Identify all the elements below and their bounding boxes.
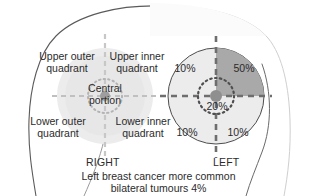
label-central-portion-line1: Central <box>74 82 136 94</box>
caption-line-1: Left breast cancer more common <box>0 170 317 182</box>
label-upper-outer-quadrant: Upper outer quadrant <box>34 50 100 74</box>
side-label-right: RIGHT <box>86 157 120 168</box>
label-lower-inner-quadrant-line1: Lower inner <box>108 115 178 127</box>
label-lower-outer-quadrant: Lower outer quadrant <box>22 115 94 139</box>
torso-neck-shade <box>150 3 266 36</box>
caption-line-2: bilateral tumours 4% <box>0 182 317 194</box>
percent-lower-outer-quadrant: 10% <box>172 127 202 138</box>
label-upper-outer-quadrant-line1: Upper outer <box>34 50 100 62</box>
diagram-canvas <box>0 0 317 196</box>
label-central-portion: Central portion <box>74 82 136 106</box>
label-upper-inner-quadrant-line1: Upper inner <box>104 50 170 62</box>
label-lower-outer-quadrant-line1: Lower outer <box>22 115 94 127</box>
breast-quadrant-diagram: Upper outer quadrant Upper inner quadran… <box>0 0 317 196</box>
label-upper-inner-quadrant-line2: quadrant <box>104 62 170 74</box>
left-breast-group <box>160 36 272 158</box>
percent-upper-inner-quadrant: 50% <box>228 63 260 74</box>
label-lower-outer-quadrant-line2: quadrant <box>22 127 94 139</box>
percent-lower-inner-quadrant: 10% <box>222 127 254 138</box>
label-lower-inner-quadrant-line2: quadrant <box>108 127 178 139</box>
label-central-portion-line2: portion <box>74 94 136 106</box>
label-upper-inner-quadrant: Upper inner quadrant <box>104 50 170 74</box>
percent-upper-outer-quadrant: 10% <box>170 63 200 74</box>
side-label-left: LEFT <box>213 157 239 168</box>
label-lower-inner-quadrant: Lower inner quadrant <box>108 115 178 139</box>
label-upper-outer-quadrant-line2: quadrant <box>34 62 100 74</box>
percent-central-portion: 20% <box>201 101 233 112</box>
